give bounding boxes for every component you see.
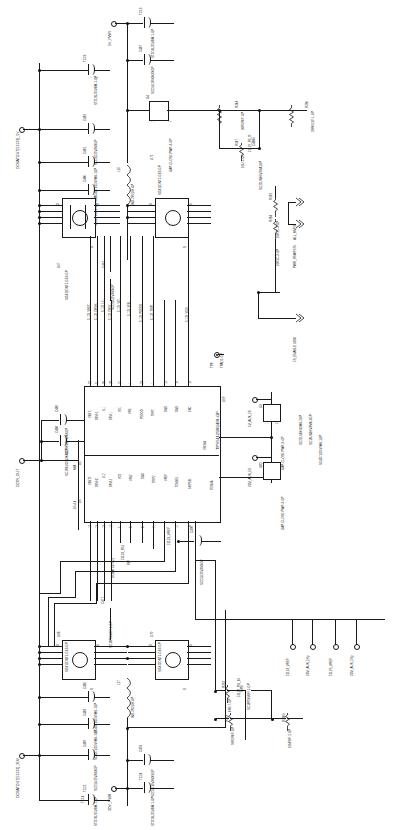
wire [128, 646, 155, 647]
ground-symbol [174, 19, 183, 27]
wire [54, 603, 97, 604]
junction [38, 222, 41, 225]
wire [259, 110, 291, 111]
ic-pin-skipsel: SKIPSEL [189, 478, 192, 489]
port-3dv-aux-5sp-a[interactable] [310, 644, 316, 650]
wire [94, 697, 110, 698]
ref-c495: C495 [241, 685, 244, 692]
wire [127, 205, 128, 260]
port-3dv-aux-5sp-b[interactable] [354, 644, 360, 650]
part-c491: SCD1U25V3KXGP [112, 284, 115, 310]
wire [215, 560, 216, 610]
pin-num: 1 [152, 121, 155, 122]
ic-ref: U69 [223, 396, 226, 402]
wire [94, 652, 127, 653]
ref-c489: C489 [84, 740, 87, 747]
ground-symbol [110, 158, 119, 166]
wire [94, 70, 110, 71]
ic-pinnum: 16 [176, 381, 179, 384]
ground-symbol [168, 358, 177, 366]
ref-c481: C481 [84, 147, 87, 154]
wire [60, 561, 61, 593]
part-c477: SC22UNE0V2KA1GP [260, 161, 263, 190]
ic-pin-pgood: PGOOD [141, 409, 144, 419]
port-5v-pwr[interactable] [111, 21, 117, 27]
ref-u67: U67 [58, 262, 61, 268]
port-3dv-pwr[interactable] [111, 786, 117, 792]
part-tp8: TPAD1-GP [221, 353, 224, 368]
wire [195, 521, 196, 619]
part-r244: 30R5R0F-GP [242, 112, 245, 130]
wire [175, 521, 176, 571]
port-5v-aux-5s[interactable] [252, 397, 258, 403]
ic-pinnum: 18 [189, 381, 192, 384]
port-51123-vref[interactable] [290, 644, 296, 650]
wire [164, 521, 165, 561]
part-c489: SCD1U25V3KXGP [95, 765, 98, 791]
wire [127, 788, 143, 789]
junction [38, 216, 41, 219]
part-tc26: ST5D6U25VBM-1-GP [95, 76, 98, 105]
ic-pin-ll2: LL2 [103, 474, 106, 478]
part-u67: SI5412DNT1-GE3-GP [66, 270, 69, 300]
port-dcin-out[interactable] [19, 458, 25, 464]
wire [150, 760, 174, 761]
wire [39, 217, 62, 218]
part-r232: 0R0-7-GP [229, 698, 232, 712]
wire [245, 690, 246, 740]
part-g3-gapclose [263, 404, 281, 422]
capacitor-c486 [58, 414, 66, 425]
part-u6: -10+14 [74, 501, 77, 510]
ground-symbol [110, 751, 119, 759]
wire [187, 658, 211, 659]
pin-num: 2 [96, 77, 99, 78]
wire [39, 697, 81, 698]
signal-flag-5s-enable[interactable] [296, 312, 306, 321]
wire [94, 658, 127, 659]
wire [39, 593, 61, 594]
ic-pin-drvl1: DRVL1 [110, 412, 113, 420]
mosfet-u67 [62, 198, 96, 238]
wire [94, 223, 120, 224]
capacitor-c493 [142, 754, 150, 765]
ref-r230: R230 [306, 101, 309, 108]
part-u68: SI5412DNT1-GE3-GP [66, 642, 69, 672]
signal-flag-all-mvrd[interactable] [296, 196, 306, 205]
wire [78, 440, 79, 530]
pin-num: 1 [266, 423, 269, 424]
ref-u6: U6 [79, 499, 82, 503]
wire [80, 70, 88, 71]
net-label-5v-pwr: 5V_PWR [108, 31, 112, 46]
wire [130, 236, 131, 386]
port-5112s-vref[interactable] [333, 644, 339, 650]
ref-l17: L17 [118, 680, 121, 685]
port-3dv-aux-5s[interactable] [252, 455, 258, 461]
wire [111, 521, 112, 601]
part-r284: 10R2C-3-GP [277, 249, 280, 266]
wire [39, 652, 62, 653]
part-g4-gapclose [149, 101, 169, 121]
junction [38, 723, 41, 726]
part-c488: SC1R0U25V3KXGP [66, 449, 69, 476]
ref-tc24: TC24 [140, 773, 143, 780]
wire [39, 190, 81, 191]
part-c488b: SCD1U25V3KXGP [201, 559, 204, 585]
part-tc25: ST5D6U25VBM-1-GP [95, 797, 98, 826]
net-label-3dv-aux-5sp-a: 3DV_AUX_5Sp [307, 655, 310, 676]
wire [127, 727, 225, 728]
wire [127, 23, 143, 24]
capacitor-c487 [142, 54, 150, 65]
part-u5: M/A [74, 465, 77, 470]
wire [39, 211, 62, 212]
ref-u70: U70 [151, 631, 154, 637]
junction [126, 216, 129, 219]
ic-pinnum: 30 [103, 381, 106, 384]
ic-pinnum: 1 [152, 383, 155, 384]
ic-pinnum: 32 [89, 381, 92, 384]
signal-flag-pwr-rsmrst[interactable] [296, 218, 306, 227]
wire [287, 718, 303, 719]
wire [356, 620, 357, 645]
junction [38, 696, 41, 699]
wire [292, 620, 293, 645]
wire [48, 597, 76, 598]
